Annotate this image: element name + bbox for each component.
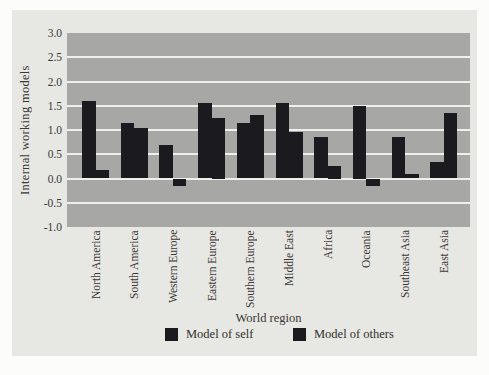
x-tick-label-south-america: South America	[125, 230, 143, 312]
bar-model-of-others-east-asia	[444, 113, 458, 178]
bar-model-of-self-north-america	[82, 101, 96, 179]
x-tick-label-north-america: North America	[87, 230, 105, 312]
bar-model-of-self-africa	[314, 137, 328, 178]
gridline-1.5	[67, 105, 470, 107]
x-tick-label-southeast-asia: Southeast Asia	[396, 230, 414, 312]
figure-panel: Internal working models 3.02.52.01.51.00…	[12, 10, 477, 356]
gridline-2.5	[67, 56, 470, 58]
bar-model-of-others-south-america	[134, 128, 148, 179]
y-tick-label-2.5: 2.5	[20, 51, 62, 63]
bar-model-of-self-southeast-asia	[392, 137, 406, 178]
bar-model-of-others-southeast-asia	[405, 174, 419, 179]
plot-area	[67, 33, 470, 227]
y-tick-label-2.0: 2.0	[20, 76, 62, 88]
bar-model-of-others-southern-europe	[250, 115, 264, 178]
bar-model-of-others-africa	[328, 166, 342, 178]
y-tick-label-1.5: 1.5	[20, 100, 62, 112]
gridline-2	[67, 81, 470, 83]
x-axis-title: World region	[67, 311, 470, 326]
bar-model-of-self-eastern-europe	[198, 103, 212, 178]
x-tick-label-western-europe: Western Europe	[164, 230, 182, 312]
bar-model-of-others-eastern-europe	[212, 118, 226, 179]
x-tick-label-oceania: Oceania	[357, 230, 375, 312]
y-tick-label--1.0: -1.0	[20, 221, 62, 233]
bar-model-of-others-north-america	[96, 170, 110, 179]
legend-label: Model of self	[186, 327, 253, 342]
legend-swatch-icon	[165, 328, 178, 341]
bar-model-of-self-middle-east	[276, 103, 290, 178]
x-tick-label-africa: Africa	[319, 230, 337, 312]
y-tick-label-1.0: 1.0	[20, 124, 62, 136]
bar-model-of-self-western-europe	[159, 145, 173, 179]
x-tick-label-southern-europe: Southern Europe	[241, 230, 259, 312]
y-tick-label-3.0: 3.0	[20, 27, 62, 39]
bar-model-of-others-oceania	[366, 179, 380, 186]
legend-swatch-icon	[293, 328, 306, 341]
y-tick-label-0.0: 0.0	[20, 173, 62, 185]
bar-model-of-self-south-america	[121, 123, 135, 179]
bar-model-of-self-oceania	[353, 106, 367, 179]
gridline--0.5	[67, 202, 470, 204]
legend-label: Model of others	[314, 327, 394, 342]
legend-item-model-of-self: Model of self	[165, 327, 253, 341]
bar-model-of-others-middle-east	[289, 132, 303, 178]
y-tick-label--0.5: -0.5	[20, 197, 62, 209]
bar-model-of-self-southern-europe	[237, 123, 251, 179]
x-tick-label-east-asia: East Asia	[435, 230, 453, 312]
bar-model-of-self-east-asia	[430, 162, 444, 179]
y-tick-label-0.5: 0.5	[20, 148, 62, 160]
bar-model-of-others-western-europe	[173, 179, 187, 186]
legend-item-model-of-others: Model of others	[293, 327, 394, 341]
x-tick-label-middle-east: Middle East	[280, 230, 298, 312]
page: Internal working models 3.02.52.01.51.00…	[0, 0, 489, 375]
x-tick-label-eastern-europe: Eastern Europe	[203, 230, 221, 312]
